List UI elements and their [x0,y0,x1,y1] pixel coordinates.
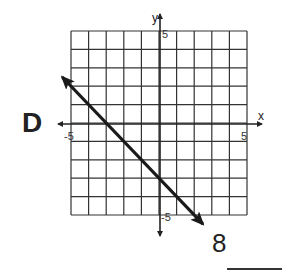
x-tick-5: 5 [241,130,247,142]
x-tick-neg5: -5 [64,130,74,142]
graph-label: D [22,107,42,139]
answer-blank[interactable] [227,268,282,270]
y-axis-label: y [152,11,158,25]
x-axis-label: x [258,109,264,123]
coordinate-plane: y x 5 -5 -5 5 [0,0,282,280]
question-number: 8 [212,228,226,259]
y-tick-5: 5 [162,28,168,40]
plotted-line [62,77,203,224]
grid [71,31,247,215]
y-tick-neg5: -5 [161,211,171,223]
